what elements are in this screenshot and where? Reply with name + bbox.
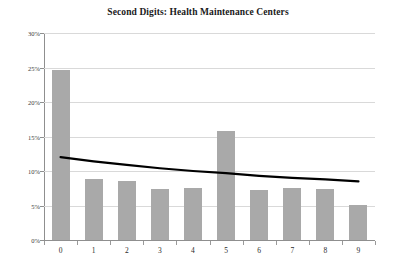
expected-trend-line [44,33,375,240]
x-tick-mark [342,241,343,245]
x-tick-mark [375,241,376,245]
x-axis-label: 6 [247,246,271,255]
y-axis-label: 20% [10,99,40,106]
x-axis-label: 7 [280,246,304,255]
y-axis-label: 15% [10,134,40,141]
x-tick-mark [176,241,177,245]
x-tick-mark [77,241,78,245]
x-axis-label: 8 [313,246,337,255]
x-axis-label: 2 [115,246,139,255]
chart-container: Second Digits: Health Maintenance Center… [0,0,396,279]
x-axis-label: 0 [49,246,73,255]
x-axis-label: 3 [148,246,172,255]
x-tick-mark [243,241,244,245]
y-axis-label: 5% [10,203,40,210]
x-tick-mark [309,241,310,245]
y-axis-label: 0% [10,237,40,244]
chart-title: Second Digits: Health Maintenance Center… [0,7,396,17]
x-axis-label: 1 [82,246,106,255]
y-axis-label: 30% [10,30,40,37]
y-axis-label: 10% [10,168,40,175]
y-axis-label: 25% [10,65,40,72]
x-tick-mark [210,241,211,245]
x-tick-mark [143,241,144,245]
x-tick-mark [44,241,45,245]
x-axis-label: 9 [346,246,370,255]
x-axis-label: 5 [214,246,238,255]
x-axis-label: 4 [181,246,205,255]
x-tick-mark [276,241,277,245]
x-tick-mark [110,241,111,245]
